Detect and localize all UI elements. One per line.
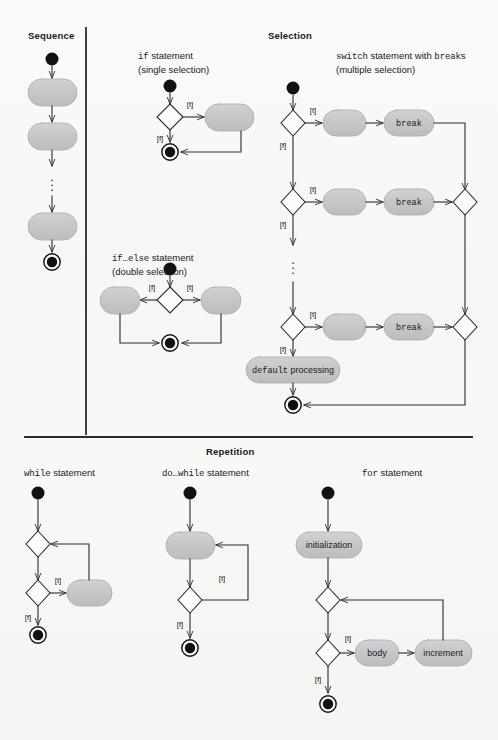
- final-node-dot: [33, 630, 43, 640]
- decision-diamond: [281, 314, 305, 340]
- label-while-keyword: while: [24, 469, 51, 479]
- final-node-dot: [47, 257, 57, 267]
- final-node-dot: [165, 147, 175, 157]
- label-if-statement: if statement (single selection): [138, 50, 209, 76]
- guard-true: [t]: [310, 310, 317, 319]
- guard-true: [t]: [187, 100, 194, 109]
- action-node: [28, 123, 77, 150]
- label-dowhile-rest: statement: [204, 467, 248, 478]
- action-node: [323, 314, 366, 340]
- break-label: break: [396, 197, 422, 208]
- guard-true: [t]: [187, 283, 194, 292]
- label-while-statement: while statement: [24, 467, 95, 481]
- break-label: break: [396, 118, 422, 129]
- guard-false: [f]: [280, 345, 287, 354]
- label-switch-rest: statement with: [368, 50, 435, 61]
- decision-diamond: [281, 110, 305, 136]
- guard-false: [f]: [177, 620, 184, 629]
- label-while-rest: statement: [51, 467, 95, 478]
- guard-true: [t]: [345, 634, 352, 643]
- action-node: [166, 532, 215, 559]
- increment-label: increment: [423, 648, 463, 658]
- label-ifelse-keyword: if…else: [112, 254, 149, 264]
- final-node-dot: [288, 400, 298, 410]
- action-node: [28, 79, 77, 106]
- action-node-true: [201, 287, 241, 314]
- label-if-rest: statement: [149, 50, 193, 61]
- label-switch-keyword: switch: [336, 52, 368, 62]
- guard-true: [t]: [310, 106, 317, 115]
- decision-diamond: [157, 104, 183, 130]
- initial-node-sequence: [46, 53, 59, 66]
- label-for-keyword: for: [362, 469, 378, 479]
- action-node: [28, 213, 77, 240]
- panel-do-while-statement: [166, 487, 248, 657]
- action-node-false: [100, 287, 140, 314]
- merge-diamond: [26, 531, 50, 557]
- final-node-dot: [185, 643, 195, 653]
- initial-node-dowhile: [184, 487, 197, 500]
- section-title-selection: Selection: [268, 30, 312, 41]
- final-node-dot: [323, 699, 333, 709]
- section-title-sequence: Sequence: [28, 30, 74, 41]
- guard-false: [f]: [149, 283, 156, 292]
- final-node-dot: [165, 338, 175, 348]
- label-ifelse-rest: statement: [149, 252, 193, 263]
- diagram-canvas: [0, 0, 498, 740]
- label-switch-rest2: s: [461, 50, 466, 61]
- activity-diagram-figure: Sequence Selection Repetition if stateme…: [0, 0, 498, 740]
- panel-if-statement: [157, 80, 254, 161]
- label-if-else-statement: if…else statement (double selection): [112, 252, 193, 278]
- decision-diamond: [26, 580, 50, 606]
- action-node: [67, 580, 112, 606]
- initial-node-for: [322, 487, 335, 500]
- guard-false: [f]: [25, 613, 32, 622]
- label-ifelse-sub: (double selection): [112, 266, 193, 279]
- decision-diamond: [157, 287, 183, 313]
- initial-node-while: [32, 487, 45, 500]
- break-label: break: [396, 322, 422, 333]
- guard-false: [f]: [280, 220, 287, 229]
- default-processing-label: default processing: [252, 365, 334, 376]
- label-if-sub: (single selection): [138, 64, 209, 77]
- decision-diamond: [178, 587, 202, 613]
- vertical-ellipsis-switch: ...: [291, 257, 295, 272]
- label-switch-sub: (multiple selection): [336, 64, 466, 77]
- section-title-repetition: Repetition: [206, 446, 254, 457]
- guard-false: [f]: [280, 141, 287, 150]
- label-break-keyword: break: [434, 52, 461, 62]
- label-if-keyword: if: [138, 52, 149, 62]
- label-dowhile-keyword: do…while: [162, 469, 204, 479]
- body-label: body: [367, 648, 387, 658]
- label-for-statement: for statement: [362, 467, 422, 481]
- guard-true: [t]: [219, 574, 226, 583]
- guard-false: [f]: [315, 675, 322, 684]
- panel-sequence: [28, 53, 77, 271]
- initialization-label: initialization: [306, 540, 353, 550]
- guard-true: [t]: [310, 185, 317, 194]
- initial-node-if: [164, 80, 177, 93]
- label-do-while-statement: do…while statement: [162, 467, 249, 481]
- decision-diamond: [316, 640, 340, 666]
- action-node: [205, 104, 254, 131]
- label-for-rest: statement: [378, 467, 422, 478]
- action-node: [323, 110, 366, 136]
- merge-diamond: [453, 189, 477, 215]
- guard-false: [f]: [157, 134, 164, 143]
- vertical-ellipsis-sequence: ...: [50, 174, 54, 189]
- panel-while-statement: [26, 487, 112, 644]
- guard-true: [t]: [55, 576, 62, 585]
- decision-diamond: [281, 189, 305, 215]
- initial-node-switch: [287, 82, 300, 95]
- label-switch-statement: switch statement with breaks (multiple s…: [336, 50, 466, 76]
- panel-switch-statement: [246, 82, 477, 414]
- panel-for-statement: [296, 487, 472, 713]
- merge-diamond: [453, 314, 477, 340]
- action-node: [323, 189, 366, 215]
- merge-diamond: [316, 587, 340, 613]
